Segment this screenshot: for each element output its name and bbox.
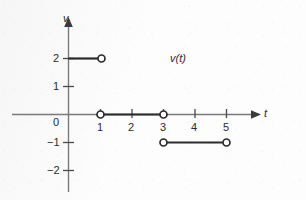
y-tick-label-neg1: −1 (47, 137, 60, 148)
open-circle-t1-v2 (98, 55, 105, 62)
open-circle-t5-vneg1 (223, 139, 230, 146)
y-tick-label-0: 0 (53, 117, 59, 128)
x-tick-label-5: 5 (223, 122, 229, 133)
signal-segments (69, 59, 227, 143)
signal-plot (0, 0, 306, 200)
x-tick-label-3: 3 (160, 122, 166, 133)
curve-label-vt: v(t) (170, 53, 186, 64)
open-circle-t1-v0 (97, 111, 104, 118)
open-circle-t3-vneg1 (160, 139, 167, 146)
v-axis-label: v (63, 13, 69, 24)
t-axis-label: t (264, 108, 267, 119)
x-tick-label-4: 4 (191, 122, 197, 133)
y-tick-label-2: 2 (53, 53, 59, 64)
y-tick-label-1: 1 (53, 81, 59, 92)
open-circle-t3-v0 (160, 111, 167, 118)
x-tick-label-2: 2 (128, 122, 134, 133)
figure-canvas: v t v(t) 2 1 0 −1 −2 1 2 3 4 5 (0, 0, 306, 200)
x-tick-label-1: 1 (97, 122, 103, 133)
y-tick-label-neg2: −2 (47, 165, 60, 176)
